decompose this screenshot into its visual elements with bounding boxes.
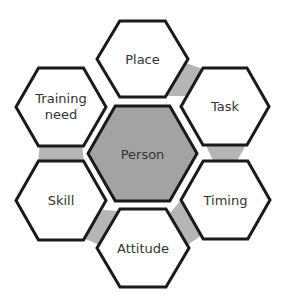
label-place: Place xyxy=(125,52,160,67)
hex-training-need: Training need xyxy=(16,68,106,146)
label-skill: Skill xyxy=(48,193,75,208)
label-timing: Timing xyxy=(203,193,248,208)
label-training-need-line1: Training xyxy=(34,91,86,106)
hexagon-diagram: Place Task Timing Attitude Skill Trainin… xyxy=(0,0,284,307)
hex-person: Person xyxy=(88,106,197,201)
label-training-need-line2: need xyxy=(45,107,78,122)
label-task: Task xyxy=(210,99,240,114)
label-attitude: Attitude xyxy=(117,241,169,256)
label-person: Person xyxy=(121,147,165,162)
